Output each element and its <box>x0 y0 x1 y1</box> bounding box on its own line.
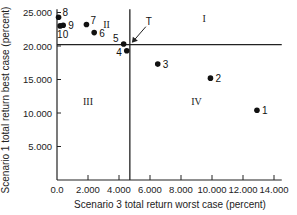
x-tick-label: 8.000 <box>169 184 193 195</box>
data-point-label: 9 <box>68 20 74 31</box>
data-point-marker <box>208 75 214 81</box>
y-tick-label: 25.000 <box>23 7 52 18</box>
data-point-label: 3 <box>163 59 169 70</box>
data-point-3: 3 <box>155 59 169 70</box>
data-point-2: 2 <box>208 73 222 84</box>
data-point-1: 1 <box>254 105 268 116</box>
data-point-marker <box>155 61 161 67</box>
x-tick-label: 14.000 <box>259 184 288 195</box>
y-tick-label: 20.000 <box>23 41 52 52</box>
x-tick-label: 4.000 <box>107 184 131 195</box>
data-point-label: 6 <box>99 28 105 39</box>
data-point-label: 2 <box>215 73 221 84</box>
x-tick-label: 0.0 <box>50 184 63 195</box>
data-point-marker <box>91 30 97 36</box>
y-tick-label: 15.000 <box>23 74 52 85</box>
y-tick-label: 10.000 <box>23 108 52 119</box>
quadrant-lines <box>57 9 282 180</box>
data-point-6: 6 <box>91 28 105 39</box>
axes <box>57 9 282 180</box>
data-point-marker <box>56 14 62 20</box>
x-tick-label: 10.000 <box>197 184 226 195</box>
quadrant-label-i: I <box>203 13 206 24</box>
x-tick-label: 2.000 <box>76 184 100 195</box>
y-axis-title: Scenario 1 total return best case (perce… <box>0 7 11 194</box>
y-tick-label: 5.000 <box>28 141 52 152</box>
data-point-label: 4 <box>116 47 122 58</box>
x-tick-label: 12.000 <box>228 184 257 195</box>
annotation-label-t: T <box>146 16 152 27</box>
data-point-marker <box>254 108 260 114</box>
x-axis-title: Scenario 3 total return worst case (perc… <box>74 199 266 210</box>
data-point-8: 8 <box>56 7 69 20</box>
data-point-marker <box>124 48 130 54</box>
quadrant-label-iii: III <box>83 96 93 107</box>
data-point-4: 4 <box>116 47 129 58</box>
data-point-marker <box>84 22 90 28</box>
data-point-label: 8 <box>63 7 69 18</box>
annotations: T <box>132 16 152 43</box>
data-point-7: 7 <box>84 15 97 28</box>
data-point-label: 5 <box>113 33 119 44</box>
data-point-label: 10 <box>57 29 69 40</box>
quadrant-scatter-chart: 0.02.0004.0006.0008.00010.00012.00014.00… <box>0 0 297 215</box>
data-point-10: 10 <box>57 23 69 40</box>
quadrant-label-iv: IV <box>191 96 202 107</box>
data-point-marker <box>57 23 63 29</box>
data-point-marker <box>121 41 127 47</box>
data-point-label: 7 <box>90 15 96 26</box>
x-tick-label: 6.000 <box>138 184 162 195</box>
data-point-label: 1 <box>262 105 268 116</box>
